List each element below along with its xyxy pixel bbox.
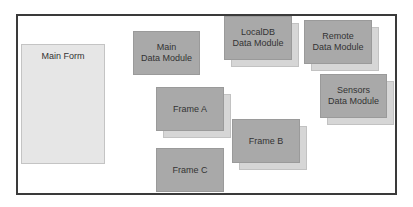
main-form: Main Form (21, 44, 105, 164)
main-data-module-label: Main Data Module (141, 42, 192, 64)
main-data-module: Main Data Module (133, 31, 200, 75)
main-form-label: Main Form (41, 51, 84, 62)
sensors-data-module-label: Sensors Data Module (328, 85, 379, 107)
frame-a-label: Frame A (173, 104, 207, 115)
localdb-data-module-label: LocalDB Data Module (232, 27, 283, 49)
frame-b-label: Frame B (249, 136, 284, 147)
frame-a: Frame A (156, 87, 224, 131)
frame-b: Frame B (232, 119, 300, 163)
frame-c: Frame C (156, 148, 224, 192)
localdb-data-module: LocalDB Data Module (224, 16, 292, 60)
frame-c-label: Frame C (172, 165, 207, 176)
remote-data-module-label: Remote Data Module (312, 31, 363, 53)
remote-data-module: Remote Data Module (304, 20, 372, 64)
sensors-data-module: Sensors Data Module (320, 74, 387, 118)
